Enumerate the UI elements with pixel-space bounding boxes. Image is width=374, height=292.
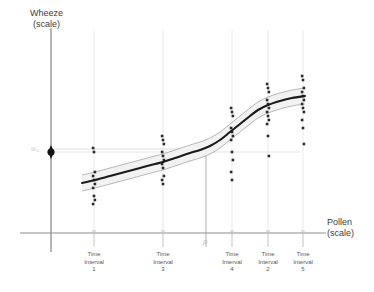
data-point [163,175,166,178]
data-point [303,87,306,90]
plot-canvas [0,0,374,292]
data-point [267,87,270,90]
data-point [93,195,96,198]
x-axis-title-line1: Pollen [327,217,354,228]
data-point [94,199,97,202]
data-point [266,83,269,86]
data-point [231,179,234,182]
x-tick-label-line: 1 [71,266,117,274]
data-point [231,111,234,114]
data-point [94,183,97,186]
x-tick-label-line: 3 [140,266,186,274]
data-point [162,139,165,142]
threshold-p-label: p [203,237,207,246]
wheeze-pollen-scatter-figure: Wheeze (scale) Pollen (scale) p w₀ TimeI… [0,0,374,292]
y-axis-title: Wheeze (scale) [30,8,63,29]
data-point [301,103,304,106]
x-tick-label-line: 5 [280,266,326,274]
x-axis-title-line2: (scale) [327,228,354,239]
guide-lines-group [51,30,303,247]
data-point [302,127,305,130]
x-tick-label-line: Time [71,251,117,259]
data-point [230,127,233,130]
axes-group [20,28,326,252]
data-point [303,111,306,114]
data-point [163,143,166,146]
y-axis-title-line1: Wheeze [30,8,63,19]
scatter-points-group [92,75,305,206]
x-tick-label-1: TimeInterval1 [71,251,117,274]
data-point [268,107,271,110]
data-point [92,203,95,206]
data-point [268,91,271,94]
data-point [266,111,269,114]
data-point [303,99,306,102]
data-point [92,147,95,150]
data-point [266,99,269,102]
x-tick-label-2: TimeInterval3 [140,251,186,274]
data-point [161,135,164,138]
data-point [94,171,97,174]
data-point [232,115,235,118]
data-point [303,143,306,146]
x-tick-label-line: Time [140,251,186,259]
data-point [162,167,165,170]
data-point [230,171,233,174]
x-axis-title: Pollen (scale) [327,217,354,238]
data-point [161,151,164,154]
data-point [266,123,269,126]
data-point [302,79,305,82]
y-axis-title-line2: (scale) [30,19,63,30]
x-tick-label-line: Interval [71,259,117,267]
data-point [92,187,95,190]
data-point [162,155,165,158]
x-tick-label-5: TimeInterval5 [280,251,326,274]
data-point [230,139,233,142]
data-point [301,91,304,94]
data-point [268,155,271,158]
data-point [230,107,233,110]
data-point [93,151,96,154]
x-tick-label-line: Time [280,251,326,259]
data-point [92,175,95,178]
data-point [232,135,235,138]
intercept-marker-diamond [48,145,54,159]
data-point [162,183,165,186]
data-point [232,159,235,162]
x-tick-label-line: Interval [140,259,186,267]
x-tick-label-line: Interval [280,259,326,267]
data-point [301,119,304,122]
data-point [231,151,234,154]
data-point [161,179,164,182]
data-point [302,107,305,110]
data-point [268,119,271,122]
annotation-markers [47,145,54,159]
data-point [301,75,304,78]
data-point [267,135,270,138]
data-point [267,115,270,118]
intercept-w0-label: w₀ [31,145,39,152]
